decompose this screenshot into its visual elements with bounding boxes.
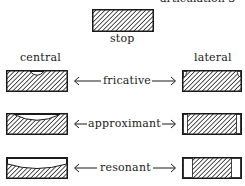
resonant-arrow: resonant xyxy=(73,161,177,175)
lateral-column-heading: lateral xyxy=(194,52,232,64)
lateral-fricative-shape xyxy=(182,70,242,92)
stop-shape xyxy=(92,9,154,32)
truncated-caption: articulation 3 xyxy=(160,0,235,5)
lateral-resonant-shape xyxy=(182,157,242,179)
central-column-heading: central xyxy=(20,52,61,64)
lateral-approximant-shape xyxy=(182,113,242,135)
approximant-label: approximant xyxy=(87,118,162,130)
fricative-label: fricative xyxy=(102,75,152,87)
central-resonant-shape xyxy=(6,157,68,179)
approximant-arrow: approximant xyxy=(73,117,177,131)
central-approximant-shape xyxy=(6,113,68,135)
resonant-label: resonant xyxy=(99,162,152,174)
central-fricative-shape xyxy=(6,70,68,92)
stop-label: stop xyxy=(110,33,135,45)
fricative-arrow: fricative xyxy=(73,74,177,88)
